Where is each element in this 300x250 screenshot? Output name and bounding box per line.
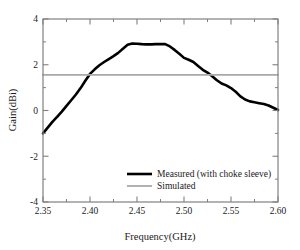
x-tick-label: 2.50: [176, 206, 193, 216]
x-tick-label: 2.60: [270, 206, 287, 216]
x-axis-tick-labels: 2.352.402.452.502.552.60: [35, 206, 287, 216]
chart-canvas: 2.352.402.452.502.552.60 -4-2024 Frequen…: [0, 0, 300, 250]
x-axis-title: Frequency(GHz): [124, 231, 196, 243]
y-axis-title: Gain(dBi): [7, 88, 19, 131]
x-tick-label: 2.55: [223, 206, 240, 216]
x-tick-label: 2.45: [129, 206, 146, 216]
y-tick-label: -4: [30, 197, 38, 207]
y-axis-tick-labels: -4-2024: [30, 14, 38, 207]
y-tick-label: -2: [30, 152, 38, 162]
x-tick-label: 2.35: [35, 206, 52, 216]
y-tick-label: 4: [33, 14, 38, 24]
x-tick-label: 2.40: [82, 206, 99, 216]
gain-vs-frequency-chart: 2.352.402.452.502.552.60 -4-2024 Frequen…: [0, 0, 300, 250]
legend-label-1: Measured (with choke sleeve): [157, 169, 271, 180]
legend-label-2: Simulated: [157, 181, 196, 191]
y-tick-label: 2: [33, 60, 38, 70]
y-tick-label: 0: [33, 106, 38, 116]
